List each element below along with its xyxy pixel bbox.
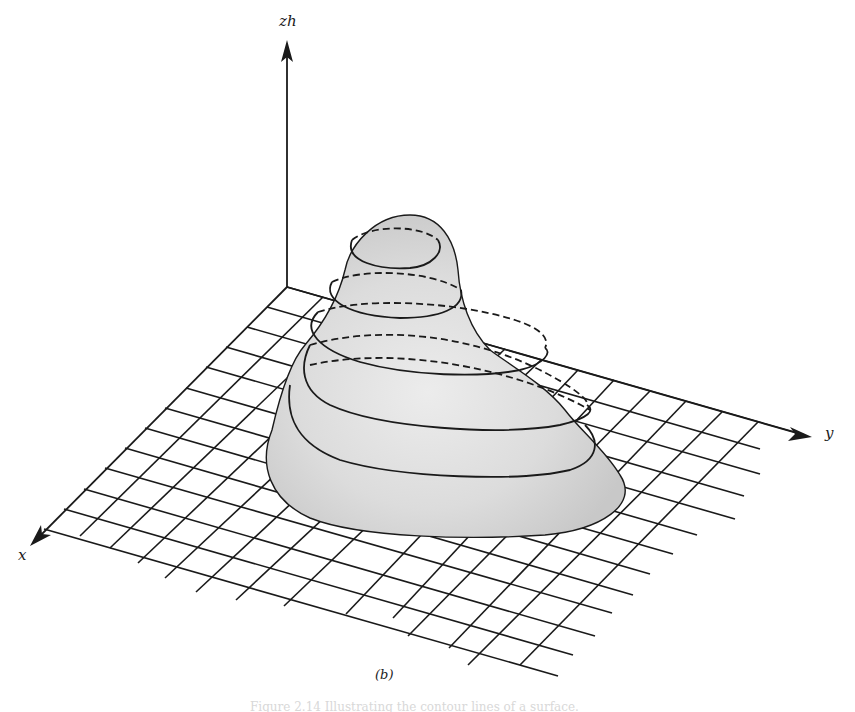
z-axis-label: zh xyxy=(279,12,297,30)
figure-caption: Figure 2.14 Illustrating the contour lin… xyxy=(250,700,670,712)
y-axis-label: y xyxy=(825,424,833,442)
y-arrowhead-icon xyxy=(788,427,812,441)
x-axis-label: x xyxy=(18,546,26,564)
subfigure-label: (b) xyxy=(375,667,393,682)
surface-diagram xyxy=(0,0,855,712)
